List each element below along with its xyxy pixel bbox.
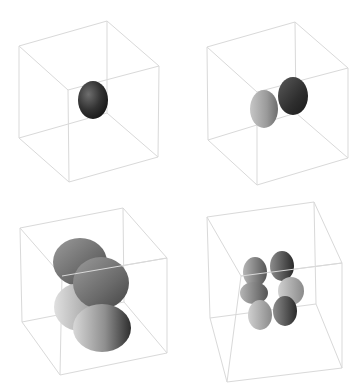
orbital-lobe-mid-left — [240, 282, 268, 304]
panel-1 — [19, 21, 159, 182]
orbital-lobe-lower-right — [273, 296, 297, 326]
panel-2 — [207, 22, 348, 185]
panel-4 — [207, 202, 342, 382]
bounding-cube — [207, 22, 348, 185]
orbital-lobe-dark — [278, 77, 308, 115]
panel-3 — [20, 208, 167, 375]
orbital-lobe-lower-left — [248, 300, 272, 330]
orbital-lobe-front-bottom — [73, 304, 131, 352]
bounding-cube — [207, 202, 342, 382]
orbital-lobe — [78, 81, 108, 119]
orbital-figure: Four 3D renderings of orbital-like lobed… — [0, 0, 364, 390]
orbital-lobe-light — [250, 90, 278, 128]
orbital-lobe-front-top — [73, 257, 129, 309]
figure-canvas — [0, 0, 364, 390]
orbital-lobe-upper-right — [270, 251, 294, 281]
